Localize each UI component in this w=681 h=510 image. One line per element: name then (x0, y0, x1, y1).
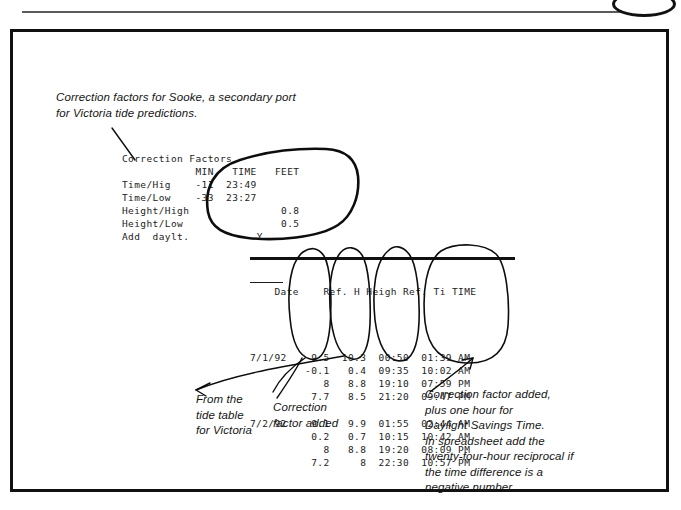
correction-factor-added-caption: Correction factor added (273, 400, 383, 431)
page-corner-ornament (612, 0, 676, 17)
intro-caption: Correction factors for Sooke, a secondar… (56, 90, 376, 121)
header-rule (22, 11, 662, 13)
daylight-savings-caption: Correction factor added, plus one hour f… (425, 387, 650, 496)
date-column-underline (250, 282, 283, 283)
tide-table-header-text: Date Ref. H Heigh Ref. Ti TIME (274, 286, 476, 297)
correction-factors-printout: Correction Factors MIN TIME FEET Time/Hi… (122, 152, 299, 243)
tide-table-header: Date Ref. H Heigh Ref. Ti TIME (250, 271, 476, 324)
tide-table-header-rule (250, 257, 515, 260)
